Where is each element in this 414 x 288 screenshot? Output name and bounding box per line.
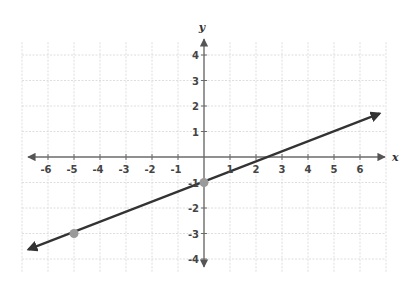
x-tick-label: 3: [279, 164, 286, 175]
x-tick-label: -4: [92, 164, 103, 175]
x-tick-label: -1: [170, 164, 181, 175]
y-tick-label: -4: [188, 254, 199, 265]
x-tick-label: 4: [305, 164, 312, 175]
y-tick-label: 3: [192, 76, 199, 87]
data-point: [70, 229, 79, 238]
x-axis-label: x: [391, 151, 399, 164]
x-tick-label: -3: [118, 164, 129, 175]
data-point: [200, 178, 209, 187]
axis-labels: -6-5-4-3-2-11234564321-1-2-3-4xy: [40, 21, 399, 265]
x-tick-label: 5: [331, 164, 338, 175]
y-tick-label: -2: [188, 203, 199, 214]
y-axis-label: y: [198, 21, 207, 34]
x-tick-label: -2: [144, 164, 155, 175]
x-tick-label: -6: [40, 164, 51, 175]
y-tick-label: 4: [192, 50, 199, 61]
y-tick-label: -1: [188, 178, 199, 189]
x-tick-label: -5: [66, 164, 77, 175]
x-tick-label: 2: [253, 164, 260, 175]
y-tick-label: -3: [188, 229, 199, 240]
y-tick-label: 1: [192, 127, 199, 138]
y-tick-label: 2: [192, 101, 199, 112]
x-tick-label: 1: [227, 164, 234, 175]
axes: [28, 39, 385, 267]
x-tick-label: 6: [357, 164, 364, 175]
coordinate-plane-chart: -6-5-4-3-2-11234564321-1-2-3-4xy: [0, 0, 414, 288]
